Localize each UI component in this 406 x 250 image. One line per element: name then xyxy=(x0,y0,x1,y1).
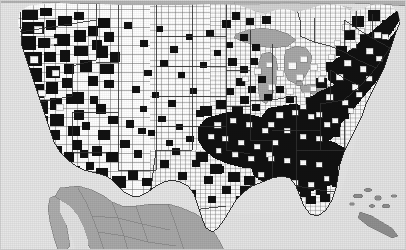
choropleth-map-figure: County-level choropleth map of the conti… xyxy=(0,0,406,250)
us-county-choropleth-svg xyxy=(0,0,406,250)
lake-st-clair xyxy=(296,81,303,86)
